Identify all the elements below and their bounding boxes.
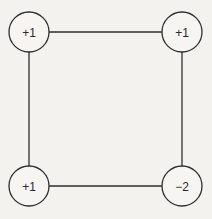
node-label: −2 xyxy=(175,180,189,194)
node-top-right: +1 xyxy=(162,12,202,52)
node-label: +1 xyxy=(175,26,189,40)
node-bottom-right: −2 xyxy=(162,166,202,206)
node-label: +1 xyxy=(22,180,36,194)
node-label: +1 xyxy=(22,26,36,40)
node-bottom-left: +1 xyxy=(9,166,49,206)
square-cycle-diagram: +1 +1 +1 −2 xyxy=(0,0,212,219)
node-top-left: +1 xyxy=(9,12,49,52)
